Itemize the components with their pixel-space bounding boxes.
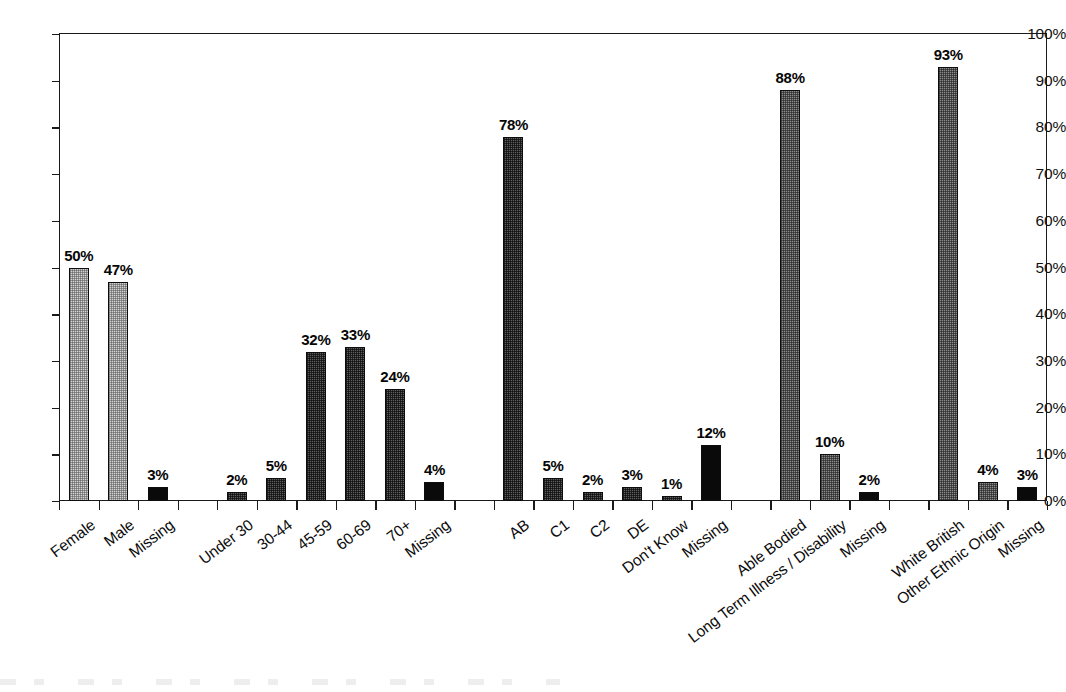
bar-value-label: 3%: [997, 466, 1057, 483]
bar-value-label: 33%: [325, 326, 385, 343]
plot-area: [59, 33, 1047, 501]
bar: [266, 478, 286, 501]
y-axis-tick-label: 40%: [1014, 306, 1066, 321]
x-axis-tick: [178, 501, 179, 510]
x-axis-tick: [849, 501, 850, 510]
x-axis-category-label: DE: [624, 516, 652, 543]
x-axis-category-label: Female: [47, 516, 99, 561]
x-axis-category-label: Missing: [125, 516, 177, 562]
y-axis-tick-mark: [52, 314, 59, 315]
bar: [503, 137, 523, 501]
y-axis-tick-label: 20%: [1014, 400, 1066, 415]
y-axis-tick-mark: [52, 268, 59, 269]
bar: [1017, 487, 1037, 501]
bar: [543, 478, 563, 501]
y-axis-tick-mark: [52, 81, 59, 82]
bar: [227, 492, 247, 501]
x-axis-tick: [494, 501, 495, 510]
x-axis-tick: [691, 501, 692, 510]
bar-value-label: 2%: [839, 471, 899, 488]
y-axis-tick-mark: [52, 221, 59, 222]
x-axis-tick: [731, 501, 732, 510]
x-axis-tick: [770, 501, 771, 510]
bar: [978, 482, 998, 501]
bar-value-label: 10%: [800, 433, 860, 450]
x-axis-tick: [296, 501, 297, 510]
bar-value-label: 24%: [365, 368, 425, 385]
x-axis-tick: [1007, 501, 1008, 510]
bar: [424, 482, 444, 501]
y-axis-tick-mark: [52, 361, 59, 362]
y-axis-tick-label: 90%: [1014, 73, 1066, 88]
y-axis-tick-label: 80%: [1014, 119, 1066, 134]
y-axis-tick-label: 30%: [1014, 353, 1066, 368]
y-axis-tick-label: 50%: [1014, 260, 1066, 275]
bar: [385, 389, 405, 501]
x-axis-category-label: C2: [586, 516, 613, 542]
x-axis-tick: [138, 501, 139, 510]
y-axis-tick-mark: [52, 501, 59, 502]
x-axis-tick: [59, 501, 60, 510]
bar: [780, 90, 800, 501]
bar-value-label: 93%: [918, 46, 978, 63]
y-axis-tick-mark: [52, 34, 59, 35]
bar-value-label: 78%: [483, 116, 543, 133]
chart-screenshot: 0%10%20%30%40%50%60%70%80%90%100% 50%47%…: [0, 0, 1066, 692]
x-axis-tick: [217, 501, 218, 510]
x-axis-category-label: AB: [506, 516, 533, 543]
x-axis-tick: [99, 501, 100, 510]
bar-value-label: 12%: [681, 424, 741, 441]
x-axis-category-label: 30-44: [254, 516, 296, 554]
x-axis-tick: [415, 501, 416, 510]
y-axis-tick-mark: [52, 408, 59, 409]
bar: [662, 496, 682, 501]
y-axis-tick-label: 10%: [1014, 446, 1066, 461]
bar: [69, 268, 89, 502]
x-axis-tick: [336, 501, 337, 510]
x-axis-tick: [573, 501, 574, 510]
bar-value-label: 88%: [760, 69, 820, 86]
y-axis-tick-label: 100%: [1014, 26, 1066, 41]
x-axis-tick: [375, 501, 376, 510]
x-axis-tick: [810, 501, 811, 510]
bar: [622, 487, 642, 501]
x-axis-tick: [1047, 501, 1048, 510]
bar: [108, 282, 128, 501]
bar-value-label: 3%: [128, 466, 188, 483]
x-axis-category-label: C1: [546, 516, 573, 542]
y-axis-tick-label: 70%: [1014, 166, 1066, 181]
y-axis-tick-label: 60%: [1014, 213, 1066, 228]
bar-value-label: 5%: [246, 457, 306, 474]
bar: [938, 67, 958, 501]
x-axis-tick: [928, 501, 929, 510]
x-axis-tick: [652, 501, 653, 510]
bar: [820, 454, 840, 501]
x-axis-category-label: 60-69: [333, 516, 375, 554]
bar: [148, 487, 168, 501]
x-axis-category-label: Under 30: [196, 516, 257, 568]
x-axis-tick: [889, 501, 890, 510]
scan-artifact: [0, 679, 560, 685]
bar-value-label: 1%: [642, 475, 702, 492]
x-axis-tick: [533, 501, 534, 510]
y-axis-tick-mark: [52, 174, 59, 175]
bar: [583, 492, 603, 501]
x-axis-category-label: 45-59: [294, 516, 336, 554]
x-axis-tick: [612, 501, 613, 510]
bar: [345, 347, 365, 501]
x-axis-tick: [257, 501, 258, 510]
bar-value-label: 47%: [88, 261, 148, 278]
y-axis-tick-mark: [52, 127, 59, 128]
bar-value-label: 4%: [404, 461, 464, 478]
bar: [859, 492, 879, 501]
x-axis-tick: [968, 501, 969, 510]
x-axis-tick: [454, 501, 455, 510]
bar: [701, 445, 721, 501]
bar: [306, 352, 326, 501]
y-axis-tick-mark: [52, 454, 59, 455]
